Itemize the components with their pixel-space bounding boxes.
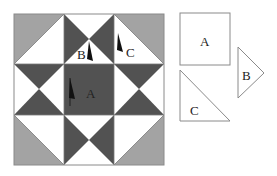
template-label-b: B [242, 68, 251, 83]
template-label-a: A [200, 34, 210, 49]
quilt-diagram: B C A A C B [0, 0, 277, 176]
block-label-c: C [126, 45, 135, 60]
template-triangle-c [180, 70, 230, 121]
block-label-b: B [77, 47, 86, 62]
template-label-c: C [190, 103, 199, 118]
block-label-a: A [86, 86, 96, 101]
quilt-block: B C A [14, 14, 164, 165]
